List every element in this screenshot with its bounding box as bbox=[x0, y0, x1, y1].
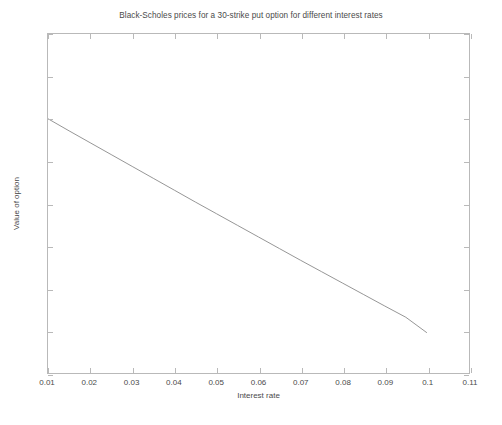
figure-canvas: Black-Scholes prices for a 30-strike put… bbox=[0, 0, 502, 425]
x-axis-tick-mark bbox=[133, 368, 134, 373]
y-axis-label: Value of option bbox=[10, 33, 22, 374]
x-axis-tick-mark bbox=[429, 34, 430, 39]
x-axis-tick-mark bbox=[133, 34, 134, 39]
x-axis-tick-mark bbox=[175, 368, 176, 373]
x-axis-tick-mark bbox=[260, 368, 261, 373]
y-axis-tick-mark bbox=[464, 205, 469, 206]
x-axis-tick-mark bbox=[386, 368, 387, 373]
y-axis-tick-mark bbox=[464, 290, 469, 291]
x-axis-tick-mark bbox=[175, 34, 176, 39]
x-axis-tick-mark bbox=[344, 34, 345, 39]
plot-area bbox=[47, 33, 470, 374]
y-axis-tick-mark bbox=[48, 77, 53, 78]
y-axis-tick-mark bbox=[464, 34, 469, 35]
y-axis-tick-mark bbox=[48, 162, 53, 163]
y-axis-tick-mark bbox=[48, 332, 53, 333]
x-axis-label: Interest rate bbox=[47, 391, 470, 400]
y-axis-tick-mark bbox=[48, 290, 53, 291]
x-axis-tick-mark bbox=[471, 368, 472, 373]
x-axis-tick-mark bbox=[386, 34, 387, 39]
x-axis-tick-mark bbox=[344, 368, 345, 373]
x-axis-tick-mark bbox=[217, 368, 218, 373]
y-axis-tick-mark bbox=[464, 247, 469, 248]
x-axis-tick-mark bbox=[90, 368, 91, 373]
chart-title: Black-Scholes prices for a 30-strike put… bbox=[0, 11, 502, 20]
y-axis-tick-mark bbox=[48, 119, 53, 120]
y-axis-tick-mark bbox=[48, 205, 53, 206]
y-axis-tick-mark bbox=[464, 332, 469, 333]
series-line-black-scholes-put bbox=[48, 119, 427, 333]
y-axis-label-text: Value of option bbox=[12, 177, 21, 230]
x-axis-tick-mark bbox=[260, 34, 261, 39]
x-axis-tick-mark bbox=[48, 34, 49, 39]
x-axis-tick-mark bbox=[302, 34, 303, 39]
x-axis-tick-mark bbox=[217, 34, 218, 39]
y-axis-tick-mark bbox=[48, 375, 53, 376]
y-axis-tick-mark bbox=[464, 162, 469, 163]
y-axis-tick-mark bbox=[464, 119, 469, 120]
x-axis-tick-mark bbox=[429, 368, 430, 373]
x-axis-tick-mark bbox=[471, 34, 472, 39]
x-axis-tick-mark bbox=[302, 368, 303, 373]
x-axis-tick-label: 0.11 bbox=[440, 378, 500, 387]
y-axis-tick-mark bbox=[464, 375, 469, 376]
x-axis-tick-mark bbox=[90, 34, 91, 39]
x-axis-tick-mark bbox=[48, 368, 49, 373]
y-axis-tick-mark bbox=[464, 77, 469, 78]
y-axis-tick-mark bbox=[48, 247, 53, 248]
data-line-svg bbox=[48, 34, 469, 373]
